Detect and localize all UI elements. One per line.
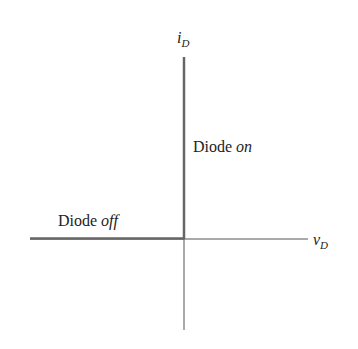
diode-on-label-state: on xyxy=(236,138,252,155)
y-axis-label-sub: D xyxy=(181,37,189,49)
diode-off-label-state: off xyxy=(101,212,118,229)
x-axis-label: vD xyxy=(313,232,328,251)
diode-off-label-text: Diode xyxy=(58,212,101,229)
y-axis-label: iD xyxy=(177,30,189,49)
diode-off-label: Diode off xyxy=(58,213,118,229)
x-axis-label-sub: D xyxy=(320,239,328,251)
diode-on-label: Diode on xyxy=(193,139,252,155)
diode-iv-plot xyxy=(0,0,358,349)
diode-on-label-text: Diode xyxy=(193,138,236,155)
